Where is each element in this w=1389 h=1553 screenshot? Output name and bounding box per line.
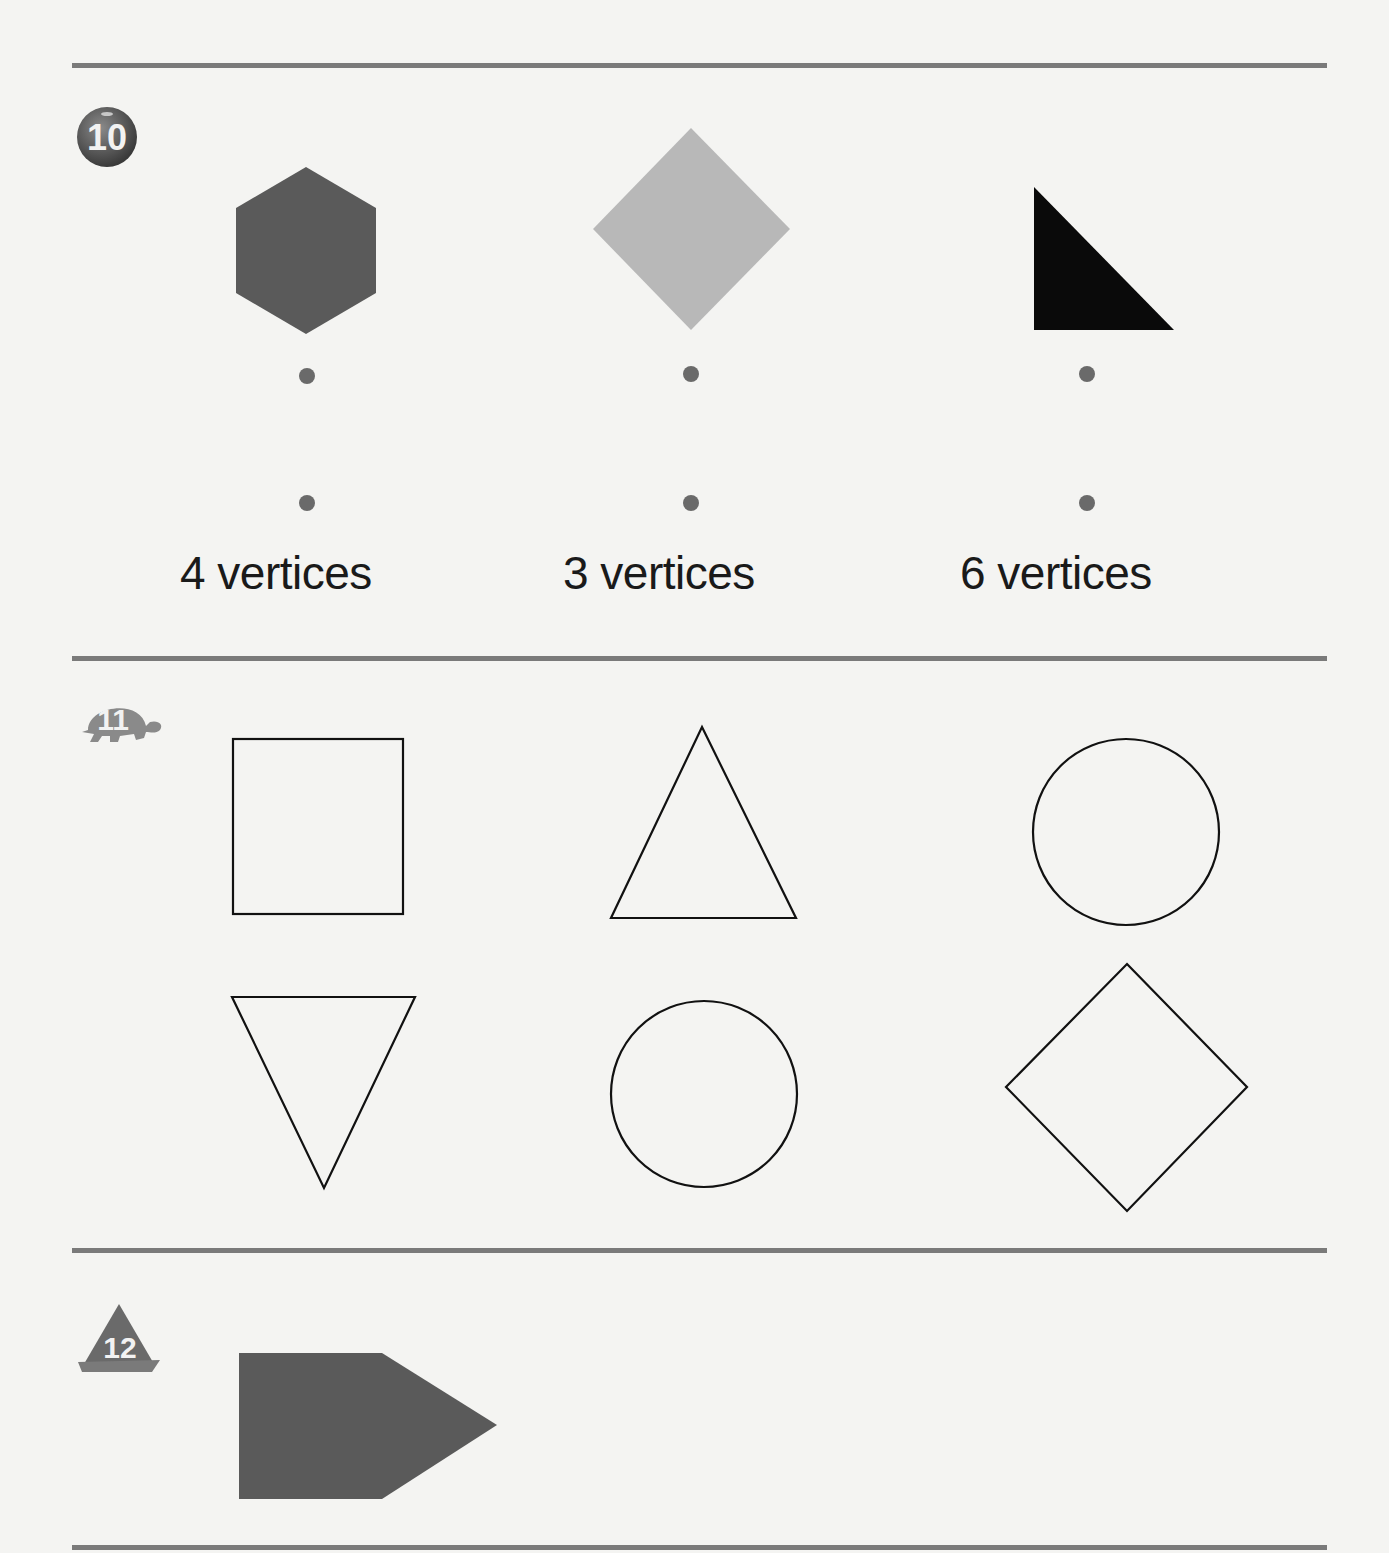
match-dot-shape-3[interactable]: [1079, 366, 1095, 382]
pentagon-shape: [239, 1353, 497, 1499]
vertices-label-2: 3 vertices: [563, 550, 755, 596]
hexagon-shape: [236, 167, 376, 334]
match-dot-label-3[interactable]: [1079, 495, 1095, 511]
diamond-shape: [593, 128, 790, 330]
diamond-outline[interactable]: [1006, 964, 1247, 1211]
match-dot-shape-2[interactable]: [683, 366, 699, 382]
worksheet-shapes: [0, 0, 1389, 1553]
circle-outline-bottom[interactable]: [611, 1001, 797, 1187]
square-outline[interactable]: [233, 739, 403, 914]
right-triangle-shape: [1034, 187, 1174, 330]
match-dot-label-1[interactable]: [299, 495, 315, 511]
circle-outline-top[interactable]: [1033, 739, 1219, 925]
match-dot-shape-1[interactable]: [299, 368, 315, 384]
match-dot-label-2[interactable]: [683, 495, 699, 511]
vertices-label-3: 6 vertices: [960, 550, 1152, 596]
inverted-triangle-outline[interactable]: [232, 997, 415, 1188]
vertices-label-1: 4 vertices: [180, 550, 372, 596]
triangle-outline[interactable]: [611, 727, 796, 918]
